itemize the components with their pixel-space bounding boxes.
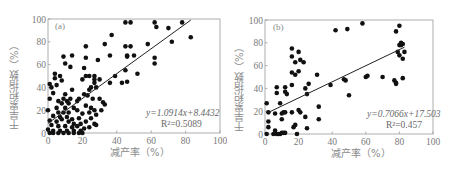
- data-point: [166, 26, 171, 31]
- y-axis-label-b: 干旱累积指数（%）: [232, 32, 247, 132]
- data-point: [135, 71, 140, 76]
- data-point: [394, 29, 399, 34]
- r-squared-b: R²=0.457: [386, 120, 422, 130]
- data-point: [90, 97, 95, 102]
- data-point: [61, 131, 66, 136]
- y-axis-label-a: 干旱累积指数（%）: [7, 30, 22, 130]
- data-point: [170, 40, 175, 45]
- data-point: [402, 50, 407, 55]
- data-point: [264, 101, 269, 106]
- x-tick-label: 100: [213, 136, 227, 146]
- data-point: [87, 74, 92, 79]
- y-tick-label: 80: [37, 37, 47, 47]
- data-point: [68, 97, 73, 102]
- data-point: [54, 83, 59, 88]
- data-point: [87, 110, 92, 115]
- data-point: [66, 119, 71, 124]
- data-point: [54, 119, 59, 124]
- data-point: [59, 78, 64, 83]
- data-point: [63, 124, 68, 129]
- scatter-plot-b: 020406080100020406080100: [227, 0, 455, 169]
- data-point: [108, 53, 113, 58]
- data-point: [59, 117, 64, 122]
- x-tick-label: 80: [181, 136, 191, 146]
- chart-panel-b: 020406080100020406080100 (b) 干旱累积指数（%） 减…: [227, 0, 455, 169]
- data-point: [92, 108, 97, 113]
- data-point: [49, 123, 54, 128]
- data-point: [125, 79, 130, 84]
- data-point: [283, 110, 288, 115]
- data-point: [72, 131, 77, 136]
- data-point: [58, 74, 63, 79]
- data-point: [75, 108, 80, 113]
- data-point: [66, 101, 71, 106]
- data-point: [54, 106, 59, 111]
- data-point: [283, 85, 288, 90]
- data-point: [306, 82, 311, 87]
- x-tick-label: 0: [263, 137, 268, 147]
- data-point: [97, 77, 102, 82]
- data-point: [97, 97, 102, 102]
- data-point: [347, 93, 352, 98]
- data-point: [400, 76, 405, 81]
- x-tick-label: 100: [426, 137, 441, 147]
- data-point: [87, 87, 92, 92]
- data-point: [128, 44, 133, 49]
- regression-equation-b: y=0.7066x+17.503: [367, 109, 441, 119]
- data-point: [295, 132, 300, 137]
- data-point: [296, 69, 301, 74]
- y-tick-label: 100: [32, 15, 47, 25]
- data-point: [108, 81, 113, 86]
- x-axis-label-b: 减产率（%）: [331, 145, 391, 160]
- data-point: [94, 123, 99, 128]
- data-point: [61, 54, 66, 59]
- data-point: [290, 110, 295, 115]
- data-point: [63, 61, 68, 66]
- y-tick-label: 20: [37, 106, 47, 116]
- data-point: [82, 66, 87, 71]
- data-point: [87, 125, 92, 130]
- data-point: [397, 23, 402, 28]
- data-point: [84, 119, 89, 124]
- data-point: [47, 97, 52, 102]
- data-point: [343, 78, 348, 83]
- chart-panel-a: 020406080100020406080100 (a) 干旱累积指数（%） 减…: [0, 0, 227, 169]
- data-point: [298, 110, 303, 115]
- data-point: [301, 60, 306, 65]
- data-point: [303, 86, 308, 91]
- data-point: [46, 108, 51, 113]
- data-point: [94, 112, 99, 117]
- data-point: [53, 71, 58, 76]
- data-point: [80, 131, 85, 136]
- r-squared-a: R²=0.5089: [161, 119, 202, 129]
- data-point: [109, 33, 114, 38]
- data-point: [152, 55, 157, 60]
- y-tick-label: 0: [41, 129, 46, 139]
- data-point: [188, 35, 193, 40]
- y-tick-label: 20: [254, 107, 264, 117]
- x-tick-label: 80: [395, 137, 405, 147]
- x-tick-label: 20: [294, 137, 304, 147]
- data-point: [152, 20, 157, 25]
- data-point: [264, 132, 269, 137]
- data-point: [63, 92, 68, 97]
- data-point: [285, 92, 290, 97]
- data-point: [128, 20, 133, 25]
- data-point: [65, 115, 70, 120]
- data-point: [274, 85, 279, 90]
- x-axis-label-a: 减产率（%）: [110, 144, 170, 159]
- data-point: [66, 131, 71, 136]
- data-point: [278, 101, 283, 106]
- y-tick-label: 0: [258, 130, 263, 140]
- data-point: [70, 87, 75, 92]
- data-point: [102, 42, 107, 47]
- data-point: [397, 43, 402, 48]
- y-tick-label: 40: [37, 83, 47, 93]
- data-point: [303, 115, 308, 120]
- data-point: [273, 111, 278, 116]
- regression-equation-a: y=1.0914x+8.4432: [146, 108, 220, 118]
- data-point: [145, 42, 150, 47]
- data-point: [315, 72, 320, 77]
- data-point: [345, 27, 350, 32]
- data-point: [380, 75, 385, 80]
